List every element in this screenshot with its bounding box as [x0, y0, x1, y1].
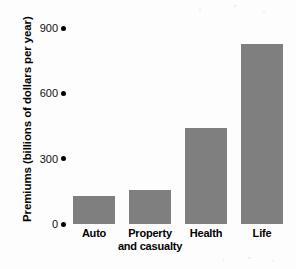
- bar-property-and-casualty[interactable]: [129, 190, 171, 224]
- y-tick-label: 600: [40, 87, 58, 99]
- y-tick-label: 900: [40, 22, 58, 34]
- y-axis-title: Premiums (billions of dollars per year): [18, 22, 36, 222]
- bar-slot: [129, 28, 171, 224]
- bar-slot: [73, 28, 115, 224]
- y-tick-label: 300: [40, 153, 58, 165]
- bar-life[interactable]: [241, 44, 283, 224]
- plot-area: [66, 28, 290, 224]
- x-axis-label-line: and casualty: [116, 240, 184, 253]
- bar-auto[interactable]: [73, 196, 115, 224]
- bar-health[interactable]: [185, 128, 227, 224]
- x-axis-label-line: Life: [228, 227, 296, 240]
- bar-slot: [241, 28, 283, 224]
- y-tick-600: 600: [26, 86, 66, 100]
- bar-slot: [185, 28, 227, 224]
- x-axis-label-life: Life: [228, 227, 296, 240]
- y-tick-label: 0: [52, 218, 58, 230]
- scan-artifact-bottom: [190, 253, 286, 265]
- scan-artifact-top: [178, 2, 288, 16]
- y-tick-300: 300: [26, 152, 66, 166]
- y-tick-900: 900: [26, 21, 66, 35]
- bar-chart-figure: Premiums (billions of dollars per year) …: [0, 0, 296, 269]
